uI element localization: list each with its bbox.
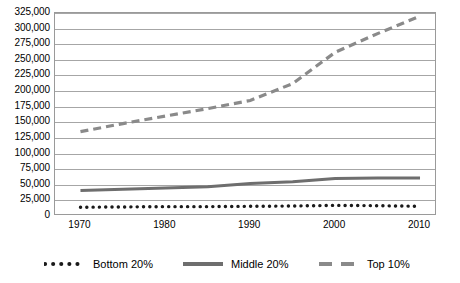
x-axis-labels: 19701980199020002010 <box>0 219 460 235</box>
dotted-line-marker <box>44 257 86 271</box>
y-tick-label: 150,000 <box>15 116 50 126</box>
y-tick-label: 300,000 <box>15 23 50 33</box>
series-line-bottom-20 <box>80 205 420 207</box>
chart-legend: Bottom 20%Middle 20%Top 10% <box>0 252 460 276</box>
legend-item: Bottom 20% <box>44 252 153 276</box>
solid-line-marker <box>182 257 224 271</box>
legend-label: Top 10% <box>367 257 410 271</box>
y-axis-labels: 325,000300,000275,000250,000225,000200,0… <box>0 0 50 227</box>
series-layer <box>55 13 437 216</box>
plot-area <box>54 12 436 215</box>
x-tick-label: 2010 <box>399 219 439 231</box>
y-tick-label: 50,000 <box>20 179 50 189</box>
y-tick-label: 75,000 <box>20 163 50 173</box>
y-tick-label: 325,000 <box>15 7 50 17</box>
series-line-top-10 <box>80 16 420 132</box>
legend-item: Middle 20% <box>182 252 288 276</box>
dashed-line-marker <box>318 257 360 271</box>
y-tick-label: 250,000 <box>15 54 50 64</box>
y-tick-label: 175,000 <box>15 101 50 111</box>
legend-item: Top 10% <box>318 252 410 276</box>
x-tick-label: 2000 <box>314 219 354 231</box>
legend-label: Bottom 20% <box>93 257 153 271</box>
x-tick-label: 1990 <box>229 219 269 231</box>
y-tick-label: 100,000 <box>15 148 50 158</box>
y-tick-label: 125,000 <box>15 132 50 142</box>
x-tick-label: 1970 <box>59 219 99 231</box>
y-tick-label: 25,000 <box>20 194 50 204</box>
legend-label: Middle 20% <box>231 257 288 271</box>
y-tick-label: 200,000 <box>15 85 50 95</box>
y-tick-label: 225,000 <box>15 69 50 79</box>
x-tick-label: 1980 <box>144 219 184 231</box>
series-line-middle-20 <box>80 178 420 190</box>
income-by-percentile-line-chart: 325,000300,000275,000250,000225,000200,0… <box>0 0 460 283</box>
y-tick-label: 275,000 <box>15 38 50 48</box>
